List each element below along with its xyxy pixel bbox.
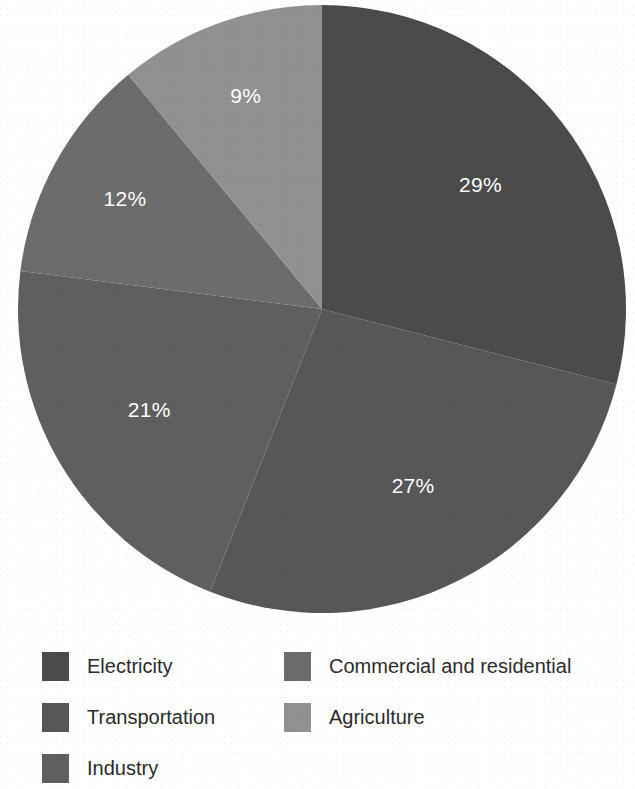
chart-legend: Electricity Transportation Industry Comm… [42,645,622,775]
pie-chart-figure: 29% 27% 21% 12% 9% Electricity Transport… [0,0,635,789]
pie-plot-area: 29% 27% 21% 12% 9% [0,0,635,625]
legend-item-commercial-and-residential[interactable]: Commercial and residential [284,645,624,687]
legend-swatch-transportation [42,703,69,732]
legend-item-industry[interactable]: Industry [42,747,292,789]
pie-label-electricity: 29% [459,173,502,196]
legend-swatch-agriculture [284,703,311,732]
pie-svg: 29% 27% 21% 12% 9% [0,0,635,625]
legend-item-transportation[interactable]: Transportation [42,696,292,738]
legend-swatch-electricity [42,652,69,681]
pie-label-commercial-and-residential: 27% [392,474,435,497]
legend-label-agriculture: Agriculture [329,707,425,727]
legend-item-electricity[interactable]: Electricity [42,645,292,687]
legend-swatch-industry [42,754,69,783]
legend-label-industry: Industry [87,758,158,778]
pie-label-transportation: 12% [103,187,146,210]
legend-label-commercial-and-residential: Commercial and residential [329,656,571,676]
legend-item-agriculture[interactable]: Agriculture [284,696,624,738]
legend-column-right: Commercial and residential Agriculture [284,645,624,747]
legend-label-electricity: Electricity [87,656,173,676]
pie-label-industry: 21% [128,398,171,421]
legend-swatch-commercial-and-residential [284,652,311,681]
pie-label-agriculture: 9% [230,84,261,107]
legend-label-transportation: Transportation [87,707,215,727]
legend-column-left: Electricity Transportation Industry [42,645,292,789]
